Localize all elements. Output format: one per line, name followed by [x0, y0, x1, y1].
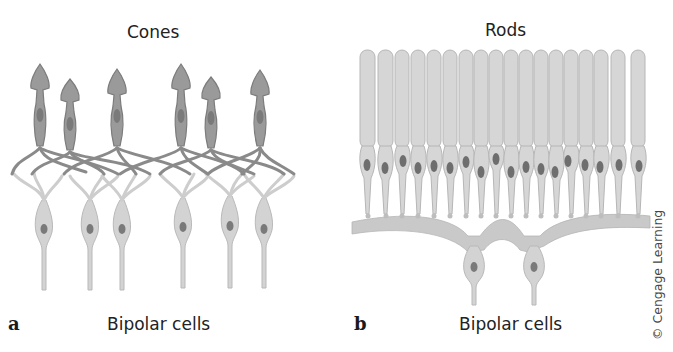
cone-cell — [108, 69, 126, 146]
rod-cell — [443, 50, 458, 214]
bipolar-cell — [524, 246, 545, 305]
rod-cell — [427, 50, 442, 214]
cone-cell — [202, 77, 220, 148]
panel-a-bipolar-label: Bipolar cells — [107, 314, 210, 334]
cone-cell — [251, 70, 269, 146]
bipolar-cell — [35, 200, 52, 290]
rod-cell — [378, 50, 393, 214]
rod-cell — [459, 50, 474, 214]
bipolar-cell — [174, 198, 191, 288]
rod-cell — [360, 50, 375, 214]
rod-cell — [504, 50, 519, 214]
rod-cell — [534, 50, 549, 214]
rod-cell — [549, 50, 564, 214]
panel-a-letter: a — [8, 313, 20, 334]
rod-cell — [564, 50, 579, 214]
bipolar-cell — [464, 246, 485, 305]
rod-cell — [411, 50, 426, 214]
cone-pedicle-branches — [12, 148, 294, 174]
panel-b-title: Rods — [485, 20, 526, 40]
rod-convergence-band — [352, 214, 650, 252]
panel-b-rods — [352, 50, 650, 305]
retina-diagram — [0, 0, 673, 352]
bipolar-cell — [113, 200, 130, 290]
rod-cell — [611, 50, 626, 214]
rod-bipolar-cells — [464, 246, 545, 305]
cone-cell — [172, 64, 190, 146]
rod-cell — [489, 50, 504, 214]
panel-a-cones — [12, 64, 294, 290]
rod-cell — [519, 50, 534, 214]
rod-cell — [395, 50, 410, 214]
bipolar-cell — [221, 196, 238, 288]
cone-cells — [31, 64, 269, 150]
cone-cell — [61, 79, 79, 150]
rod-cell — [594, 50, 609, 214]
cone-cell — [31, 64, 49, 146]
rod-cell — [631, 50, 646, 214]
bipolar-cell — [255, 198, 272, 288]
panel-b-letter: b — [354, 313, 367, 334]
copyright-credit: © Cengage Learning — [650, 210, 665, 340]
panel-b-bipolar-label: Bipolar cells — [459, 314, 562, 334]
cone-bipolar-cells — [35, 196, 272, 290]
rod-cells — [360, 50, 646, 214]
rod-cell — [474, 50, 489, 214]
panel-a-title: Cones — [127, 22, 179, 42]
bipolar-cell — [81, 200, 98, 290]
cone-bipolar-dendrites — [14, 172, 294, 200]
rod-cell — [579, 50, 594, 214]
